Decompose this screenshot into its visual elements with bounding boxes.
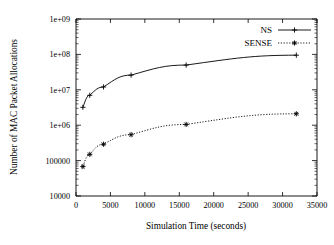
data-point-sense xyxy=(294,111,299,116)
legend-label-ns: NS xyxy=(260,25,272,35)
data-point-sense xyxy=(87,152,92,157)
data-point-sense xyxy=(80,164,85,169)
x-tick-label: 5000 xyxy=(102,201,118,210)
legend-label-sense: SENSE xyxy=(244,38,272,48)
y-axis-label: Number of MAC Packet Allocations xyxy=(9,39,19,175)
y-tick-label: 1e+07 xyxy=(49,86,70,95)
x-tick-label: 30000 xyxy=(272,201,292,210)
y-tick-label: 1e+08 xyxy=(49,50,70,59)
y-tick-label: 100000 xyxy=(45,157,70,166)
x-tick-label: 0 xyxy=(74,201,78,210)
data-point-sense xyxy=(184,122,189,127)
legend-sample-marker-sense xyxy=(292,40,297,45)
x-tick-label: 25000 xyxy=(238,201,258,210)
y-tick-label: 1e+09 xyxy=(49,15,70,24)
y-tick-label: 10000 xyxy=(50,192,70,201)
y-tick-label: 1e+06 xyxy=(49,121,70,130)
x-tick-label: 15000 xyxy=(169,201,189,210)
x-tick-label: 20000 xyxy=(203,201,223,210)
data-point-sense xyxy=(128,132,133,137)
data-point-sense xyxy=(101,142,106,147)
x-tick-label: 35000 xyxy=(307,201,327,210)
chart-figure: 100001000001e+061e+071e+081e+09 05000100… xyxy=(0,0,334,245)
x-tick-label: 10000 xyxy=(135,201,155,210)
chart-svg: 100001000001e+061e+071e+081e+09 05000100… xyxy=(0,0,334,245)
x-axis-label: Simulation Time (seconds) xyxy=(146,221,246,232)
